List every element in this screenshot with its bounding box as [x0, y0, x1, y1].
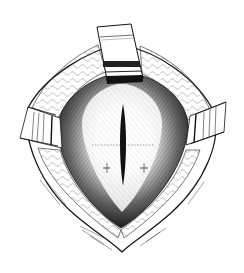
- surgical-illustration: [0, 0, 244, 273]
- illustration-canvas: [0, 0, 244, 273]
